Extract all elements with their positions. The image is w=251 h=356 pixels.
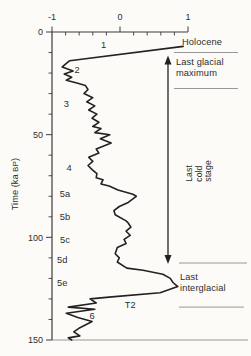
last-cold-stage-label: Last cold stage [185, 160, 214, 182]
lgm-line-2: maximum [176, 68, 224, 79]
holocene-label: Holocene [182, 37, 222, 48]
last-interglacial-label: Last interglacial [180, 272, 226, 294]
last-glacial-maximum-label: Last glacial maximum [176, 57, 224, 79]
lgm-line-1: Last glacial [176, 57, 224, 68]
y-axis-title-close: ) [10, 158, 20, 161]
holocene-label-text: Holocene [182, 37, 222, 48]
y-axis-title-smallcaps: BP [11, 161, 20, 172]
y-axis-title: Time (ka BP) [10, 158, 20, 210]
li-line-1: Last [180, 272, 226, 283]
annotation-layer: Time (ka BP) Holocene Last glacial maxim… [0, 0, 251, 356]
li-line-2: interglacial [180, 283, 226, 294]
y-axis-title-text: Time (ka [10, 172, 20, 210]
isotope-stage-figure: -10105010015012345a5b5c5d5e6T2 Time (ka … [0, 0, 251, 356]
lcs-word-3: stage [204, 160, 214, 182]
